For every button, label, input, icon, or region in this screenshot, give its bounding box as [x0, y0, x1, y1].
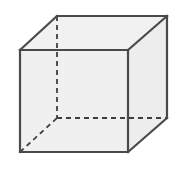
cube-svg: Cube A three-dimensional cube drawn in o…: [0, 0, 178, 169]
cube-figure-canvas: Cube A three-dimensional cube drawn in o…: [0, 0, 178, 169]
